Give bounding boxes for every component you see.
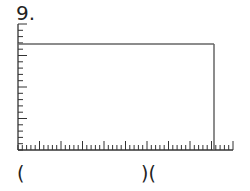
axes — [18, 24, 233, 150]
rectangle-outline — [18, 44, 214, 150]
answer-right-parens: )( — [141, 162, 156, 184]
tick-marks — [18, 24, 233, 150]
answer-left-paren: ( — [17, 162, 24, 184]
coordinate-grid — [0, 0, 250, 191]
